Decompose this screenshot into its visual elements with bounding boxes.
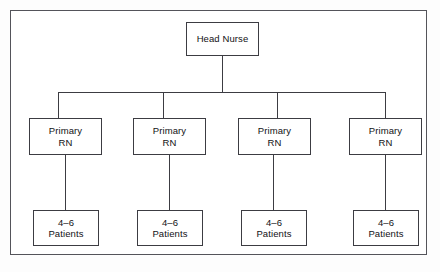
node-patients-4-label: 4–6 Patients [368,217,403,239]
node-primary-rn-3: Primary RN [238,118,311,155]
node-patients-2: 4–6 Patients [137,210,203,246]
node-patients-3: 4–6 Patients [241,210,307,246]
node-primary-rn-4-label: Primary RN [369,125,402,147]
node-primary-rn-2-label: Primary RN [153,125,186,147]
node-patients-4: 4–6 Patients [353,210,419,246]
organizational-chart: Head Nurse Primary RN Primary RN Primary… [0,0,440,272]
node-head-nurse: Head Nurse [186,22,259,56]
node-patients-3-label: 4–6 Patients [256,217,291,239]
node-patients-1-label: 4–6 Patients [48,217,83,239]
node-primary-rn-2: Primary RN [133,118,206,155]
node-primary-rn-1: Primary RN [29,118,102,155]
node-primary-rn-4: Primary RN [349,118,422,155]
node-primary-rn-3-label: Primary RN [258,125,291,147]
node-head-nurse-label: Head Nurse [197,33,249,44]
node-primary-rn-1-label: Primary RN [49,125,82,147]
node-patients-1: 4–6 Patients [33,210,99,246]
node-patients-2-label: 4–6 Patients [152,217,187,239]
